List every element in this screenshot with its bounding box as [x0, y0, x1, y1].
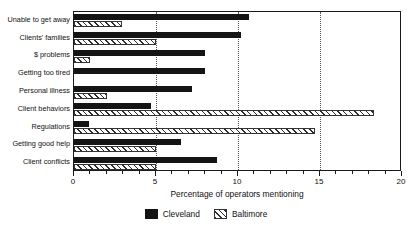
x-tick-2 [106, 171, 107, 174]
bar-row [74, 50, 400, 63]
bar-cleveland [74, 139, 181, 145]
x-tick-9 [221, 171, 222, 174]
bar-baltimore [74, 21, 122, 27]
x-tick-label-15: 15 [315, 177, 324, 187]
x-tick-14 [303, 171, 304, 174]
category-label: Client behaviors [0, 105, 70, 113]
bar-baltimore [74, 128, 315, 134]
legend-label-cleveland: Cleveland [163, 209, 200, 219]
x-tick-19 [385, 171, 386, 174]
bar-row [74, 86, 400, 99]
category-label: Regulations [0, 123, 70, 131]
bar-row [74, 121, 400, 134]
bar-row [74, 139, 400, 152]
category-label: Unable to get away [0, 16, 70, 24]
bar-baltimore [74, 93, 107, 99]
x-tick-label-10: 10 [233, 177, 242, 187]
category-label: Getting too tired [0, 69, 70, 77]
x-tick-11 [253, 171, 254, 174]
legend-swatch-baltimore-icon [214, 209, 227, 219]
x-tick-15 [319, 171, 320, 176]
x-tick-18 [368, 171, 369, 174]
bar-row [74, 157, 400, 170]
x-tick-1 [89, 171, 90, 174]
x-tick-8 [204, 171, 205, 174]
bar-row [74, 14, 400, 27]
x-tick-16 [335, 171, 336, 174]
bar-cleveland [74, 86, 192, 92]
bar-chart: Unable to get awayClients' families$ pro… [0, 0, 412, 233]
bar-row [74, 32, 400, 45]
bar-cleveland [74, 50, 205, 56]
bar-cleveland [74, 121, 89, 127]
bar-baltimore [74, 146, 156, 152]
bar-cleveland [74, 103, 151, 109]
bar-baltimore [74, 57, 90, 63]
bar-baltimore [74, 110, 374, 116]
x-tick-label-0: 0 [71, 177, 75, 187]
x-axis-ticks [73, 171, 401, 176]
legend-label-baltimore: Baltimore [232, 209, 267, 219]
bar-cleveland [74, 157, 217, 163]
plot-area [73, 11, 401, 171]
x-tick-6 [171, 171, 172, 174]
chart-legend: Cleveland Baltimore [0, 209, 412, 219]
bar-cleveland [74, 68, 205, 74]
category-label: Getting good help [0, 140, 70, 148]
legend-swatch-cleveland-icon [145, 209, 158, 219]
bar-baltimore [74, 39, 156, 45]
x-axis-title: Percentage of operators mentioning [73, 189, 401, 200]
legend-entry-cleveland: Cleveland [145, 209, 200, 219]
bar-cleveland [74, 14, 249, 20]
bar-rows [74, 12, 400, 170]
category-label: Client conflicts [0, 158, 70, 166]
x-tick-10 [237, 171, 238, 176]
x-axis-tick-labels: 05101520 [73, 177, 401, 189]
x-tick-12 [270, 171, 271, 174]
x-tick-label-20: 20 [397, 177, 406, 187]
x-tick-7 [188, 171, 189, 174]
x-tick-17 [352, 171, 353, 174]
bar-baltimore [74, 164, 156, 170]
x-tick-5 [155, 171, 156, 176]
x-tick-20 [401, 171, 402, 176]
x-tick-0 [73, 171, 74, 176]
bar-cleveland [74, 32, 241, 38]
legend-entry-baltimore: Baltimore [214, 209, 267, 219]
category-label: Clients' families [0, 34, 70, 42]
category-label: Personal illness [0, 87, 70, 95]
bar-row [74, 103, 400, 116]
x-tick-13 [286, 171, 287, 174]
category-label: $ problems [0, 51, 70, 59]
x-tick-4 [139, 171, 140, 174]
category-axis-labels: Unable to get awayClients' families$ pro… [0, 11, 70, 171]
x-tick-label-5: 5 [153, 177, 157, 187]
bar-row [74, 68, 400, 81]
x-tick-3 [122, 171, 123, 174]
